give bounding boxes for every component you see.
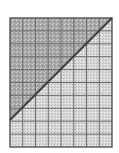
grid-content: [10, 18, 112, 147]
grid-diagram: [0, 0, 119, 153]
